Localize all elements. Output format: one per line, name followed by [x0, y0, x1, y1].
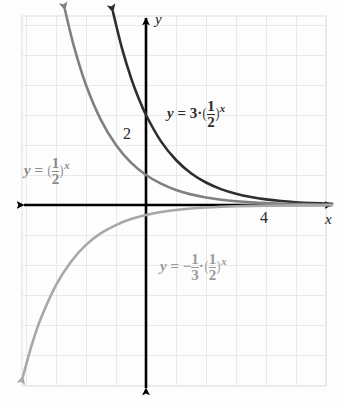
eq-equals: = [177, 105, 186, 121]
eq-lead: y [167, 105, 174, 121]
eq-base-denominator: 2 [52, 171, 60, 187]
eq-paren-open: ( [204, 259, 208, 274]
eq-exponent: x [220, 102, 225, 114]
x-axis-name-label: x [325, 212, 332, 227]
eq-base-denominator: 2 [209, 267, 217, 283]
y-axis-name-label: y [155, 12, 162, 27]
eq-paren-open: ( [203, 106, 207, 121]
eq-lead: y [24, 162, 31, 178]
eq-paren-close: ) [217, 259, 221, 274]
eq-coef-numerator: 1 [191, 252, 199, 267]
eq-base-fraction: 12 [207, 99, 215, 131]
equation-label-medium-curve: y = (12)x [24, 156, 70, 188]
eq-base-fraction: 12 [52, 156, 60, 188]
graph-canvas [0, 0, 344, 402]
eq-dot: · [199, 258, 204, 274]
eq-base-fraction: 12 [209, 252, 217, 284]
eq-exponent: x [221, 255, 226, 267]
eq-paren-close: ) [215, 106, 219, 121]
eq-dot: · [197, 105, 202, 121]
exponential-graph-figure: y = 3·(12)x y = (12)x y = −13·(12)x 2 4 … [0, 0, 344, 402]
eq-exponent: x [64, 159, 69, 171]
eq-base-denominator: 2 [207, 114, 215, 130]
eq-base-numerator: 1 [209, 252, 217, 267]
equation-label-light-curve: y = −13·(12)x [160, 252, 227, 284]
eq-coefficient-fraction: 13 [191, 252, 199, 284]
eq-equals: = [34, 162, 43, 178]
eq-coef-denominator: 3 [191, 267, 199, 283]
eq-paren-open: ( [47, 163, 51, 178]
equation-label-dark-curve: y = 3·(12)x [167, 99, 225, 131]
eq-equals: = [170, 258, 179, 274]
eq-minus-sign: − [183, 258, 192, 274]
eq-paren-close: ) [60, 163, 64, 178]
y-axis-tick-label-2: 2 [123, 126, 131, 142]
eq-lead: y [160, 258, 167, 274]
x-axis-tick-label-4: 4 [260, 210, 268, 226]
eq-base-numerator: 1 [52, 156, 60, 171]
eq-base-numerator: 1 [207, 99, 215, 114]
